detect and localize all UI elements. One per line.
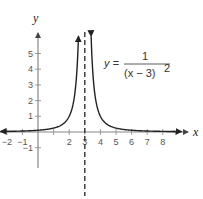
x-tick-label: 5 (113, 137, 118, 147)
y-tick-label: 5 (28, 49, 33, 59)
curve-right-branch (91, 36, 175, 131)
y-tick-label: 2 (28, 96, 33, 106)
y-tick-label: −1 (23, 143, 33, 153)
equation-label: y = 1 (x − 3) 2 (103, 50, 170, 79)
curve-left-branch (13, 36, 78, 131)
svg-text:(x − 3): (x − 3) (124, 67, 155, 79)
y-axis-label: y (32, 11, 39, 25)
function-graph: −2−12345678 −112345 y x y = 1 (x − 3) 2 (0, 0, 203, 199)
y-tick-label: 1 (28, 111, 33, 121)
x-tick-label: 2 (67, 137, 72, 147)
svg-text:1: 1 (142, 50, 148, 62)
y-tick-label: 4 (28, 64, 33, 74)
svg-text:2: 2 (164, 62, 170, 74)
x-tick-label: −2 (2, 137, 12, 147)
x-tick-label: 8 (160, 137, 165, 147)
x-axis-label: x (192, 125, 199, 139)
svg-text:y =: y = (103, 57, 120, 69)
x-tick-label: 4 (98, 137, 103, 147)
x-tick-label: 6 (129, 137, 134, 147)
x-tick-label: 7 (145, 137, 150, 147)
y-tick-label: 3 (28, 80, 33, 90)
